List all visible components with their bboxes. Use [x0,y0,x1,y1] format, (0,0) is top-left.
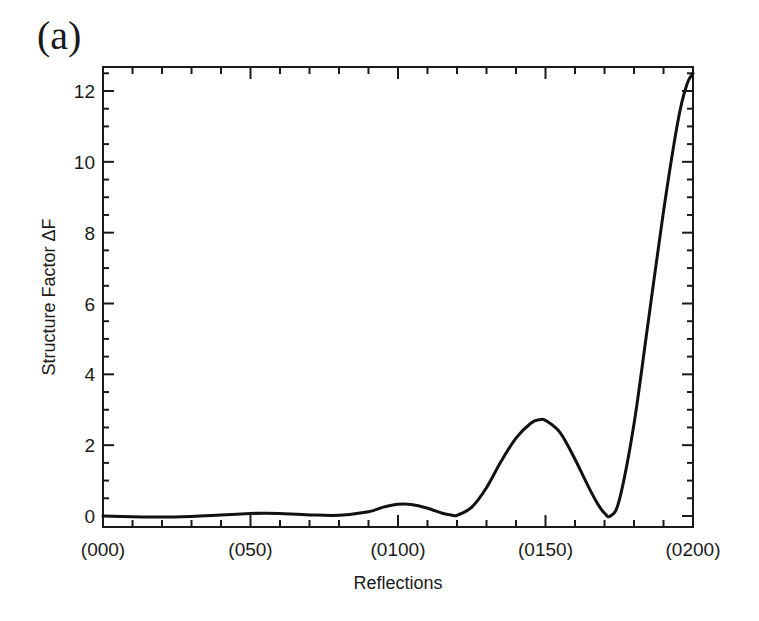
data-line [103,73,693,517]
x-tick-label: (0200) [666,539,721,560]
plot-frame [103,67,693,527]
y-tick-label: 12 [74,81,95,102]
x-axis-label: Reflections [353,573,442,593]
x-tick-label: (0150) [518,539,573,560]
x-tick-label: (000) [81,539,125,560]
y-tick-label: 10 [74,152,95,173]
y-tick-label: 0 [84,506,95,527]
y-tick-label: 2 [84,435,95,456]
plot-border [103,67,693,527]
x-tick-label: (0100) [371,539,426,560]
line-chart: (000)(050)(0100)(0150)(0200)024681012 Re… [0,0,759,621]
x-tick-label: (050) [228,539,272,560]
y-tick-label: 4 [84,364,95,385]
y-tick-label: 6 [84,294,95,315]
y-axis-label: Structure Factor ΔF [39,218,59,375]
y-tick-label: 8 [84,223,95,244]
axis-ticks [103,67,693,527]
